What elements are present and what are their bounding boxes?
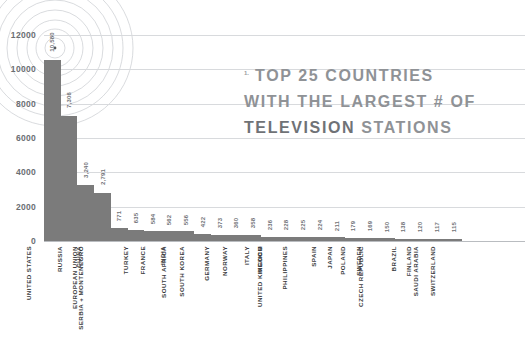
bar-slot: 373 xyxy=(211,18,228,241)
bar[interactable]: 224 xyxy=(312,237,329,241)
chart-title-line-3-strong: TELEVISION xyxy=(244,119,355,136)
y-axis-tick-label: 2000 xyxy=(16,202,36,212)
bar[interactable]: 7,306 xyxy=(61,116,78,241)
chart-title-marker: 1. xyxy=(244,70,249,76)
bar[interactable]: 228 xyxy=(278,237,295,241)
x-axis-category-label: PHILIPPINES xyxy=(281,246,288,289)
y-axis: 020004000600080001000012000 xyxy=(0,18,40,241)
bar-value-label: 562 xyxy=(166,214,172,225)
bar[interactable]: 358 xyxy=(245,235,262,241)
y-axis-tick-label: 6000 xyxy=(16,133,36,143)
bar[interactable]: 373 xyxy=(211,235,228,241)
bar-value-label: 169 xyxy=(367,221,373,232)
bar-slot: 3,240 xyxy=(77,18,94,241)
bar-slot: 360 xyxy=(228,18,245,241)
bar-value-label: 3,240 xyxy=(83,162,89,178)
bar[interactable]: 360 xyxy=(228,235,245,241)
x-axis-category-label: ITALY xyxy=(243,246,250,265)
bar-value-label: 138 xyxy=(400,221,406,232)
x-axis-category-label: TURKEY xyxy=(122,246,129,274)
bar[interactable]: 562 xyxy=(161,231,178,241)
bar-value-label: 360 xyxy=(233,218,239,229)
y-axis-tick-label: 10000 xyxy=(11,64,36,74)
chart-title-block: 1. TOP 25 COUNTRIES WITH THE LARGEST # O… xyxy=(244,60,520,141)
bar-value-label: 117 xyxy=(434,222,440,232)
bar-value-label: 771 xyxy=(116,211,122,222)
bar-slot: 556 xyxy=(178,18,195,241)
bar-value-label: 7,306 xyxy=(66,92,72,108)
x-axis-category-label: CZECH REPUBLIC xyxy=(356,246,363,307)
bar[interactable]: 138 xyxy=(395,239,412,241)
x-axis-category-label: SOUTH KOREA xyxy=(177,246,184,297)
axis-baseline xyxy=(44,241,525,242)
bar-slot: 771 xyxy=(111,18,128,241)
bar[interactable]: 3,240 xyxy=(77,185,94,241)
bar[interactable]: 169 xyxy=(362,238,379,241)
x-axis-category-label: SWITZERLAND xyxy=(429,246,436,296)
x-axis-category-slot: MEXICO xyxy=(261,246,278,346)
x-axis-category-label: JAPAN xyxy=(325,246,332,269)
x-axis-category-slot: SWITZERLAND xyxy=(445,246,462,346)
y-axis-tick-label: 4000 xyxy=(16,167,36,177)
bar[interactable]: 771 xyxy=(111,228,128,241)
bar-value-label: 179 xyxy=(350,221,356,232)
bar-slot: 584 xyxy=(144,18,161,241)
bar[interactable]: 150 xyxy=(378,238,395,241)
bar-slot: 2,791 xyxy=(94,18,111,241)
chart-title-line-3-rest: STATIONS xyxy=(361,119,452,136)
x-axis-category-label: UNITED KINGDOM xyxy=(256,246,263,307)
chart-title-line-1-text: TOP 25 COUNTRIES xyxy=(255,67,434,84)
bar-value-label: 422 xyxy=(200,217,206,228)
bar[interactable]: 2,791 xyxy=(94,193,111,241)
bar-value-label: 2,791 xyxy=(100,169,106,185)
bar-value-label: 225 xyxy=(300,220,306,231)
bar[interactable]: 584 xyxy=(144,231,161,241)
bar-slot: 635 xyxy=(128,18,145,241)
bar[interactable]: 10,580 xyxy=(44,60,61,241)
bar[interactable]: 179 xyxy=(345,238,362,241)
x-axis-category-label: SOUTH AFRICA xyxy=(160,246,167,298)
bar-slot: 10,580 xyxy=(44,18,61,241)
x-axis-category-label: SAUDI ARABIA xyxy=(412,246,419,296)
bar[interactable]: 556 xyxy=(178,231,195,241)
bar-value-label: 10,580 xyxy=(49,32,55,52)
bar-slot: 7,306 xyxy=(61,18,78,241)
bar[interactable]: 115 xyxy=(445,239,462,241)
x-axis-category-label: GERMANY xyxy=(202,246,209,281)
bar-value-label: 115 xyxy=(451,222,457,232)
bar-value-label: 584 xyxy=(150,214,156,225)
x-axis-category-slot: NORWAY xyxy=(228,246,245,346)
bar-value-label: 236 xyxy=(267,220,273,231)
x-axis-category-label: BRAZIL xyxy=(391,246,398,271)
x-axis-category-slot: SWEDEN xyxy=(362,246,379,346)
y-axis-tick-label: 8000 xyxy=(16,99,36,109)
bar[interactable]: 225 xyxy=(295,237,312,241)
chart-title-line-3: TELEVISION STATIONS xyxy=(244,115,520,141)
y-axis-tick-label: 12000 xyxy=(11,30,36,40)
bar[interactable]: 117 xyxy=(429,239,446,241)
bar-value-label: 120 xyxy=(417,222,423,233)
x-axis-category-slot: EUROPEAN UNION xyxy=(94,246,111,346)
x-axis-category-label: NORWAY xyxy=(221,246,228,276)
bar[interactable]: 635 xyxy=(128,230,145,241)
x-axis-category-label: UNITED STATES xyxy=(25,246,32,300)
y-axis-tick-label: 0 xyxy=(31,236,36,246)
bar[interactable]: 211 xyxy=(328,237,345,241)
chart-title-line-1: 1. TOP 25 COUNTRIES xyxy=(244,60,520,89)
bar[interactable]: 120 xyxy=(412,239,429,241)
x-axis-category-label: FRANCE xyxy=(138,246,145,274)
bar[interactable]: 422 xyxy=(194,234,211,241)
bar-value-label: 224 xyxy=(317,220,323,231)
x-axis-category-label: RUSSIA xyxy=(56,246,63,272)
bar-value-label: 373 xyxy=(217,217,223,228)
bar-value-label: 358 xyxy=(250,218,256,229)
bar-value-label: 635 xyxy=(133,213,139,224)
bar-value-label: 211 xyxy=(334,220,340,230)
bar-value-label: 556 xyxy=(183,214,189,225)
x-axis-category-label: SPAIN xyxy=(310,246,317,267)
chart-title-line-2: WITH THE LARGEST # OF xyxy=(244,89,520,115)
bar-slot: 422 xyxy=(194,18,211,241)
x-axis-category-label: SERBIA + MONTENEGRO xyxy=(77,246,84,330)
infographic-canvas: 020004000600080001000012000 10,5807,3063… xyxy=(0,0,525,348)
bar[interactable]: 236 xyxy=(261,237,278,241)
